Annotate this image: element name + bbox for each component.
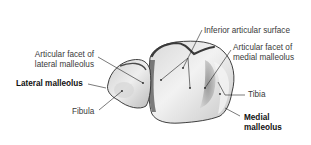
label-medial-malleolus: Medial malleolus	[244, 113, 282, 132]
label-lateral-malleolus: Lateral malleolus	[16, 79, 83, 89]
label-text: Tibia	[248, 90, 265, 99]
label-text: Lateral malleolus	[16, 79, 83, 88]
tibia-shape	[149, 41, 234, 123]
label-articular-facet-medial-malleolus: Articular facet of medial malleolus	[233, 43, 294, 62]
label-articular-facet-lateral-malleolus: Articular facet of lateral malleolus	[22, 50, 94, 69]
label-tibia: Tibia	[248, 90, 265, 100]
label-text: Fibula	[72, 107, 94, 116]
label-text-line1: Articular facet of	[22, 50, 94, 60]
label-text-line2: medial malleolus	[233, 53, 294, 63]
fibula-shape	[107, 59, 150, 108]
anatomy-diagram: Inferior articular surface Articular fac…	[0, 0, 311, 145]
label-text-line1: Articular facet of	[233, 43, 294, 53]
label-text-line2: malleolus	[244, 123, 282, 133]
label-text-line1: Medial	[244, 113, 282, 123]
label-fibula: Fibula	[72, 107, 94, 117]
label-text-line2: lateral malleolus	[22, 60, 94, 70]
label-inferior-articular-surface: Inferior articular surface	[204, 26, 290, 36]
label-text: Inferior articular surface	[204, 26, 290, 35]
